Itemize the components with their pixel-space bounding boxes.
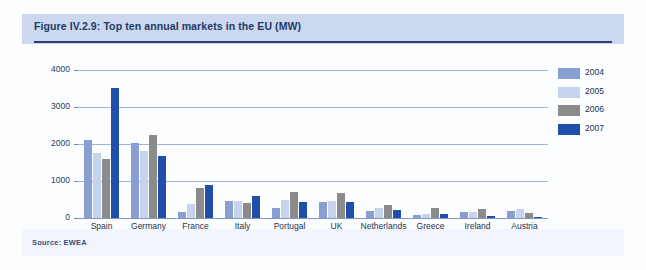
- legend-swatch-2006: [558, 105, 580, 116]
- legend-label-2006: 2006: [585, 104, 604, 114]
- category-label-austria: Austria: [493, 221, 556, 231]
- bar-austria-2006: [525, 213, 533, 218]
- bar-group: [366, 0, 401, 218]
- bar-portugal-2005: [281, 200, 289, 219]
- legend-swatch-2004: [558, 68, 580, 79]
- bar-germany-2004: [131, 143, 139, 218]
- bar-italy-2004: [225, 201, 233, 218]
- legend-label-2004: 2004: [585, 67, 604, 77]
- bar-group: [131, 0, 166, 218]
- legend-swatch-2007: [558, 124, 580, 135]
- bar-portugal-2004: [272, 208, 280, 218]
- bar-spain-2006: [102, 159, 110, 218]
- bar-portugal-2006: [290, 192, 298, 218]
- bar-spain-2005: [93, 153, 101, 218]
- bar-greece-2005: [422, 214, 430, 218]
- bar-netherlands-2005: [375, 208, 383, 218]
- source-note: Source: EWEA: [32, 238, 87, 247]
- bar-france-2007: [205, 185, 213, 218]
- bar-group: [507, 0, 542, 218]
- figure-container: Figure IV.2.9: Top ten annual markets in…: [0, 0, 646, 270]
- bar-group: [460, 0, 495, 218]
- legend-label-2007: 2007: [585, 123, 604, 133]
- bar-italy-2007: [252, 196, 260, 218]
- legend-label-2005: 2005: [585, 86, 604, 96]
- bar-group: [319, 0, 354, 218]
- bar-germany-2007: [158, 156, 166, 218]
- bar-portugal-2007: [299, 202, 307, 218]
- bar-uk-2004: [319, 202, 327, 218]
- bar-italy-2005: [234, 201, 242, 218]
- bar-group: [413, 0, 448, 218]
- bar-austria-2004: [507, 211, 515, 218]
- bar-uk-2006: [337, 193, 345, 218]
- bar-italy-2006: [243, 203, 251, 218]
- bar-uk-2005: [328, 201, 336, 218]
- bar-france-2006: [196, 188, 204, 218]
- bar-france-2004: [178, 212, 186, 218]
- bar-greece-2007: [440, 214, 448, 218]
- bar-uk-2007: [346, 202, 354, 218]
- bar-austria-2007: [534, 217, 542, 218]
- bar-ireland-2007: [487, 216, 495, 218]
- bar-ireland-2006: [478, 209, 486, 218]
- bar-group: [178, 0, 213, 218]
- bar-ireland-2005: [469, 212, 477, 218]
- bar-group: [272, 0, 307, 218]
- bar-greece-2006: [431, 208, 439, 218]
- bar-netherlands-2004: [366, 211, 374, 218]
- bar-germany-2005: [140, 151, 148, 218]
- legend-swatch-2005: [558, 87, 580, 98]
- bar-spain-2007: [111, 88, 119, 218]
- bar-austria-2005: [516, 209, 524, 218]
- bar-greece-2004: [413, 215, 421, 218]
- bar-netherlands-2006: [384, 205, 392, 218]
- bar-ireland-2004: [460, 212, 468, 218]
- bar-france-2005: [187, 204, 195, 218]
- bar-group: [84, 0, 119, 218]
- bar-germany-2006: [149, 135, 157, 218]
- bar-group: [225, 0, 260, 218]
- bar-netherlands-2007: [393, 210, 401, 218]
- bar-spain-2004: [84, 140, 92, 218]
